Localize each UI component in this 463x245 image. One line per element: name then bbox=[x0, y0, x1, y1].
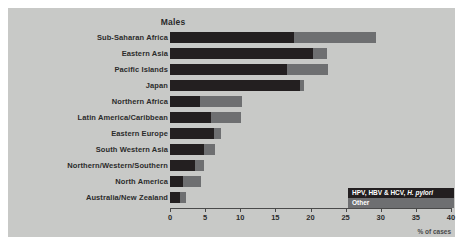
x-axis-tick-label: 30 bbox=[366, 213, 396, 222]
bar-segment bbox=[214, 128, 221, 139]
bar-segment bbox=[170, 176, 183, 187]
bar-row bbox=[170, 144, 215, 155]
bar-segment bbox=[180, 192, 186, 203]
bar-row bbox=[170, 176, 201, 187]
category-label: Sub-Saharan Africa bbox=[14, 33, 168, 42]
bar-segment bbox=[170, 144, 204, 155]
bar-segment bbox=[200, 96, 241, 107]
category-axis-labels: Sub-Saharan AfricaEastern AsiaPacific Is… bbox=[12, 30, 168, 206]
bar-segment bbox=[204, 144, 215, 155]
bar-row bbox=[170, 192, 186, 203]
x-axis-tick bbox=[205, 208, 206, 212]
x-axis-tick-label: 35 bbox=[401, 213, 431, 222]
category-label: Australia/New Zealand bbox=[14, 193, 168, 202]
bar-segment bbox=[313, 48, 327, 59]
x-axis-tick-label: 40 bbox=[436, 213, 463, 222]
bar-segment bbox=[170, 32, 294, 43]
x-axis-tick bbox=[170, 208, 171, 212]
bar-segment bbox=[183, 176, 201, 187]
legend-label-other: Other bbox=[352, 199, 369, 206]
chart-panel: Males Sub-Saharan AfricaEastern AsiaPaci… bbox=[8, 8, 455, 237]
bar-row bbox=[170, 128, 221, 139]
bar-segment bbox=[195, 160, 203, 171]
bar-row bbox=[170, 96, 242, 107]
x-axis-tick bbox=[451, 208, 452, 212]
x-axis-tick bbox=[240, 208, 241, 212]
bar-segment bbox=[294, 32, 376, 43]
category-label: Pacific Islands bbox=[14, 65, 168, 74]
legend-item-other: Other bbox=[348, 198, 454, 208]
bar-segment bbox=[170, 80, 300, 91]
x-axis-tick-label: 25 bbox=[331, 213, 361, 222]
category-label: Eastern Europe bbox=[14, 129, 168, 138]
bar-segment bbox=[211, 112, 241, 123]
chart-legend: HPV, HBV & HCV, H. pylori Other bbox=[348, 188, 454, 208]
plot-area bbox=[170, 30, 451, 206]
bar-segment bbox=[170, 96, 200, 107]
category-label: Northern/Western/Southern bbox=[14, 161, 168, 170]
x-axis-tick-label: 5 bbox=[190, 213, 220, 222]
bar-segment bbox=[287, 64, 328, 75]
category-label: South Western Asia bbox=[14, 145, 168, 154]
chart-figure: Males Sub-Saharan AfricaEastern AsiaPaci… bbox=[0, 0, 463, 245]
x-axis-tick bbox=[275, 208, 276, 212]
x-axis-tick bbox=[311, 208, 312, 212]
bar-segment bbox=[170, 64, 287, 75]
x-axis-tick-label: 0 bbox=[155, 213, 185, 222]
x-axis-tick bbox=[416, 208, 417, 212]
x-axis-tick bbox=[381, 208, 382, 212]
x-axis-tick-label: 20 bbox=[296, 213, 326, 222]
bar-row bbox=[170, 48, 327, 59]
category-label: Japan bbox=[14, 81, 168, 90]
bar-segment bbox=[170, 48, 313, 59]
category-label: Latin America/Caribbean bbox=[14, 113, 168, 122]
bar-segment bbox=[170, 160, 195, 171]
category-label: Eastern Asia bbox=[14, 49, 168, 58]
page-title: Males bbox=[108, 17, 238, 27]
legend-item-infection: HPV, HBV & HCV, H. pylori bbox=[348, 188, 454, 198]
x-axis-tick-label: 15 bbox=[260, 213, 290, 222]
bar-segment bbox=[170, 112, 211, 123]
legend-label-infection-italic: H. pylori bbox=[407, 189, 433, 196]
x-axis-title: % of cases bbox=[351, 228, 451, 235]
bar-row bbox=[170, 80, 304, 91]
bar-segment bbox=[300, 80, 304, 91]
x-axis-tick-label: 10 bbox=[225, 213, 255, 222]
category-label: North America bbox=[14, 177, 168, 186]
bar-row bbox=[170, 160, 204, 171]
bar-segment bbox=[170, 128, 214, 139]
x-axis-tick bbox=[346, 208, 347, 212]
bar-row bbox=[170, 64, 328, 75]
bar-segment bbox=[170, 192, 180, 203]
category-label: Northern Africa bbox=[14, 97, 168, 106]
legend-label-infection-prefix: HPV, HBV & HCV, bbox=[352, 189, 407, 196]
bar-row bbox=[170, 32, 376, 43]
bar-row bbox=[170, 112, 241, 123]
